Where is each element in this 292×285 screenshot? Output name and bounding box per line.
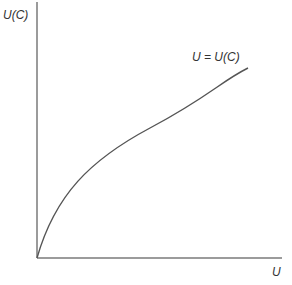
curve-label: U = U(C)	[192, 50, 240, 64]
utility-curve	[37, 68, 248, 258]
y-axis-label: U(C)	[3, 8, 28, 22]
utility-graph	[0, 0, 292, 285]
x-axis-label: U	[272, 265, 281, 279]
diagram-canvas: U(C) U = U(C) U	[0, 0, 292, 285]
